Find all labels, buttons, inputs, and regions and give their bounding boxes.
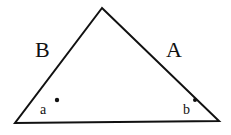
side-label-a: A: [166, 37, 182, 62]
angle-label-b: b: [183, 102, 190, 117]
angle-dot-a: [55, 98, 59, 102]
angle-dot-b: [193, 98, 197, 102]
triangle-svg: B A a b: [0, 0, 231, 135]
triangle-diagram: B A a b: [0, 0, 231, 135]
side-label-b: B: [35, 37, 50, 62]
angle-label-a: a: [40, 102, 47, 117]
